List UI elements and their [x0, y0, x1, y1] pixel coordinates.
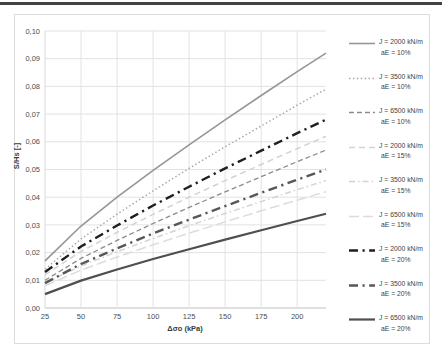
- legend-label-line2: aE = 15%: [379, 151, 423, 162]
- legend-swatch-icon: [349, 142, 375, 153]
- y-tick-label: 0,02: [25, 248, 40, 257]
- legend-swatch-icon: [349, 176, 375, 187]
- legend-swatch-icon: [349, 73, 375, 84]
- x-tick-label: 75: [113, 312, 121, 321]
- legend-label-line2: aE = 20%: [379, 255, 423, 266]
- legend-entry-7: J = 3500 kN/maE = 20%: [349, 279, 429, 300]
- legend-label: J = 2000 kN/maE = 15%: [379, 141, 423, 162]
- legend-entry-2: J = 6500 kN/maE = 10%: [349, 106, 429, 127]
- legend-label-line1: J = 6500 kN/m: [379, 313, 423, 324]
- series-line-5: [45, 192, 326, 286]
- legend-label-line2: aE = 15%: [379, 220, 423, 231]
- chart-container: 0,000,010,020,030,040,050,060,070,080,09…: [14, 14, 430, 344]
- legend-entry-1: J = 3500 kN/maE = 10%: [349, 72, 429, 93]
- legend-label-line2: aE = 20%: [379, 289, 423, 300]
- x-tick-label: 25: [41, 312, 49, 321]
- legend-swatch-icon: [349, 38, 375, 49]
- legend-swatch-icon: [349, 245, 375, 256]
- x-tick-label: 100: [147, 312, 160, 321]
- page: 0,000,010,020,030,040,050,060,070,080,09…: [0, 0, 442, 361]
- legend-swatch-icon: [349, 280, 375, 291]
- y-axis-title: S/Hs [-]: [12, 116, 24, 196]
- y-tick-label: 0,04: [25, 193, 40, 202]
- y-tick-label: 0,07: [25, 110, 40, 119]
- y-tick-label: 0,00: [25, 304, 40, 313]
- legend-label-line1: J = 2000 kN/m: [379, 244, 423, 255]
- series-line-1: [45, 89, 326, 269]
- legend-label: J = 3500 kN/maE = 20%: [379, 279, 423, 300]
- legend-label-line2: aE = 20%: [379, 324, 423, 335]
- legend-entry-0: J = 2000 kN/maE = 10%: [349, 37, 429, 58]
- legend-label-line2: aE = 10%: [379, 48, 423, 59]
- x-tick-label: 125: [183, 312, 196, 321]
- y-tick-label: 0,10: [25, 27, 40, 36]
- top-divider-rule: [0, 2, 442, 5]
- legend-swatch-icon: [349, 314, 375, 325]
- legend-entry-6: J = 2000 kN/maE = 20%: [349, 244, 429, 265]
- x-axis-title: Δσo (kPa): [125, 324, 245, 333]
- y-tick-label: 0,08: [25, 82, 40, 91]
- y-tick-label: 0,09: [25, 54, 40, 63]
- legend-label-line1: J = 6500 kN/m: [379, 210, 423, 221]
- legend-label: J = 3500 kN/maE = 15%: [379, 175, 423, 196]
- x-tick-label: 200: [291, 312, 304, 321]
- x-tick-label: 50: [77, 312, 85, 321]
- legend-label: J = 6500 kN/maE = 15%: [379, 210, 423, 231]
- x-tick-label: 150: [219, 312, 232, 321]
- legend-label-line1: J = 2000 kN/m: [379, 141, 423, 152]
- legend-label: J = 2000 kN/maE = 20%: [379, 244, 423, 265]
- legend-label-line1: J = 6500 kN/m: [379, 106, 423, 117]
- legend-swatch-icon: [349, 107, 375, 118]
- y-tick-label: 0,05: [25, 165, 40, 174]
- legend-entry-8: J = 6500 kN/maE = 20%: [349, 313, 429, 334]
- legend-label-line2: aE = 15%: [379, 186, 423, 197]
- legend-label: J = 2000 kN/maE = 10%: [379, 37, 423, 58]
- legend-entry-3: J = 2000 kN/maE = 15%: [349, 141, 429, 162]
- legend-label-line2: aE = 10%: [379, 82, 423, 93]
- legend-entry-5: J = 6500 kN/maE = 15%: [349, 210, 429, 231]
- legend-label: J = 6500 kN/maE = 10%: [379, 106, 423, 127]
- series-line-0: [45, 53, 326, 261]
- y-tick-label: 0,06: [25, 137, 40, 146]
- legend-label-line1: J = 3500 kN/m: [379, 279, 423, 290]
- series-line-3: [45, 136, 326, 274]
- chart-legend: J = 2000 kN/maE = 10%J = 3500 kN/maE = 1…: [349, 37, 429, 348]
- y-tick-label: 0,03: [25, 221, 40, 230]
- y-tick-label: 0,01: [25, 276, 40, 285]
- legend-label-line1: J = 2000 kN/m: [379, 37, 423, 48]
- legend-label: J = 3500 kN/maE = 10%: [379, 72, 423, 93]
- series-line-8: [45, 214, 326, 294]
- legend-swatch-icon: [349, 211, 375, 222]
- legend-label-line1: J = 3500 kN/m: [379, 175, 423, 186]
- legend-label: J = 6500 kN/maE = 20%: [379, 313, 423, 334]
- legend-entry-4: J = 3500 kN/maE = 15%: [349, 175, 429, 196]
- x-tick-label: 175: [255, 312, 268, 321]
- legend-label-line2: aE = 10%: [379, 117, 423, 128]
- legend-label-line1: J = 3500 kN/m: [379, 72, 423, 83]
